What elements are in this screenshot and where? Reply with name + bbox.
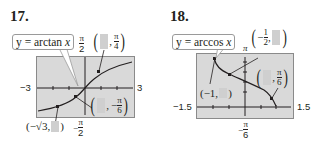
point-label-3: (−√3,) xyxy=(26,120,64,132)
point-label-1: (, π4 ) xyxy=(92,30,126,52)
point-label-3: (−1,) xyxy=(200,87,232,99)
ymin-label: − π6 xyxy=(238,120,248,139)
xmax-label: 1.5 xyxy=(297,101,310,112)
answer-blank[interactable] xyxy=(97,98,105,113)
point-label-1: ( − 12 , ) xyxy=(250,26,288,48)
answer-blank[interactable] xyxy=(51,121,59,132)
function-label: y = arctan x xyxy=(12,34,74,50)
point-label-2: (, − π6 ) xyxy=(89,94,129,116)
problem-17: 17. y = arctan x π2 (, π4 ) −3 3 xyxy=(0,0,160,149)
ymax-label: π2 xyxy=(79,34,84,53)
answer-blank[interactable] xyxy=(219,88,227,98)
answer-blank[interactable] xyxy=(272,30,280,45)
problem-18: 18. y = arccos x π ( − 12 , ) xyxy=(160,0,321,149)
answer-blank[interactable] xyxy=(263,70,271,85)
ymin-label: − π2 xyxy=(73,118,83,137)
xmin-label: −3 xyxy=(20,82,31,93)
ymax-label: π xyxy=(243,43,248,53)
answer-blank[interactable] xyxy=(100,34,108,49)
xmax-label: 3 xyxy=(137,82,142,93)
xmin-label: −1.5 xyxy=(173,101,192,112)
function-label: y = arccos x xyxy=(172,34,235,50)
point-label-2: (, π6 ) xyxy=(255,66,289,88)
